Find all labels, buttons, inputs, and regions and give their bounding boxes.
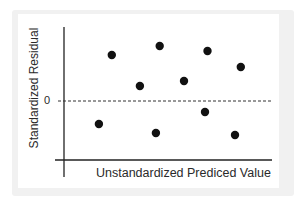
data-point xyxy=(180,77,188,85)
data-point xyxy=(201,108,209,116)
data-point xyxy=(156,42,164,50)
data-point xyxy=(95,120,103,128)
data-point xyxy=(237,63,245,71)
x-axis-label: Unstandardized Prediced Value xyxy=(96,166,271,180)
data-point xyxy=(152,129,160,137)
y-axis-label: Standardized Residual xyxy=(27,28,41,149)
data-points xyxy=(95,42,245,139)
data-point xyxy=(136,82,144,90)
data-point xyxy=(108,51,116,59)
data-point xyxy=(203,47,211,55)
data-point xyxy=(231,131,239,139)
y-zero-tick-label: 0 xyxy=(44,94,50,106)
